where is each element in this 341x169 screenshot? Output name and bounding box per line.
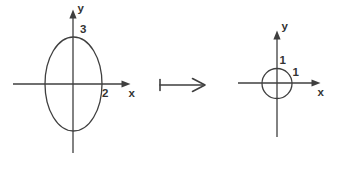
right-y-axis-label: y — [282, 20, 289, 32]
diagram-svg: y 3 2 x y 1 1 x — [0, 0, 341, 169]
right-y-intercept-label: 1 — [280, 54, 287, 66]
right-x-axis-label: x — [318, 86, 325, 98]
left-y-axis-label: y — [78, 2, 85, 14]
maps-to-arrow — [160, 79, 205, 92]
left-x-intercept-label: 2 — [102, 87, 108, 99]
left-plot: y 3 2 x — [13, 2, 136, 154]
left-y-intercept-label: 3 — [80, 23, 86, 35]
right-plot: y 1 1 x — [238, 20, 325, 138]
left-x-axis-label: x — [129, 87, 136, 99]
right-y-axis-arrowhead-icon — [273, 31, 280, 40]
right-x-intercept-label: 1 — [293, 66, 300, 78]
math-diagram: y 3 2 x y 1 1 x — [0, 0, 341, 169]
left-y-axis-arrowhead-icon — [69, 10, 76, 19]
